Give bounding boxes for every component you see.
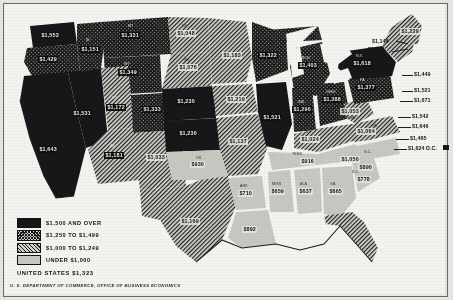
value-label-va: $1,064 xyxy=(356,128,376,135)
value-label-az: $1,181 xyxy=(104,152,124,159)
value-label-wi: $1,322 xyxy=(258,52,278,59)
legend-row-3: $1,000 TO $1,249 xyxy=(17,243,101,253)
value-label-nm: $1,033 xyxy=(146,154,166,161)
legend-label-1000-1249: $1,000 TO $1,249 xyxy=(46,245,99,251)
abbrev-ind: IND xyxy=(298,100,305,104)
value-label-ia: $1,219 xyxy=(226,96,246,103)
abbrev-va: VA xyxy=(372,124,377,128)
abbrev-pa: PA xyxy=(360,78,365,82)
callout-nj: $1,542 xyxy=(412,114,429,119)
abbrev-sc: S.C. xyxy=(352,170,359,174)
map-page: $1,553 $1,429 $1,643 $1,531 $1,151 $1,33… xyxy=(0,0,453,300)
value-label-sd: $1,076 xyxy=(178,64,198,71)
abbrev-nc: N.C. xyxy=(364,150,372,154)
abbrev-ms: MISS xyxy=(272,182,281,186)
callout-leader-ct xyxy=(400,101,413,102)
value-label-ny: $1,618 xyxy=(352,60,372,67)
value-label-ar: $710 xyxy=(238,190,253,197)
value-label-ok: $930 xyxy=(190,161,205,168)
value-label-id: $1,151 xyxy=(80,46,100,53)
value-label-oh: $1,388 xyxy=(322,96,342,103)
legend-swatch-under-1000 xyxy=(17,255,41,266)
value-label-ut: $1,172 xyxy=(106,104,126,111)
abbrev-al: ALA xyxy=(300,182,307,186)
abbrev-ok: OK xyxy=(196,156,201,160)
callout-leader-de xyxy=(398,127,411,128)
callout-nh: $1,183 xyxy=(368,47,385,52)
callout-ri: $1,521 xyxy=(414,88,431,93)
value-label-tn: $916 xyxy=(300,158,315,165)
value-label-ne: $1,230 xyxy=(176,98,196,105)
value-label-pa: $1,377 xyxy=(356,84,376,91)
value-label-nc: $890 xyxy=(358,164,373,171)
legend-swatch-1500-and-over xyxy=(17,218,41,229)
abbrev-wy: WY xyxy=(124,62,130,66)
abbrev-az: AZ xyxy=(110,144,115,148)
value-label-in: $1,290 xyxy=(292,106,312,113)
value-label-me: $1,229 xyxy=(400,28,420,35)
value-label-sc: $778 xyxy=(356,176,371,183)
abbrev-nd: ND xyxy=(182,24,187,28)
value-label-mt: $1,331 xyxy=(120,32,140,39)
abbrev-mt: MT xyxy=(128,24,133,28)
callout-leader-ma xyxy=(402,75,413,76)
abbrev-sd: SD xyxy=(184,58,189,62)
legend-row-4: UNDER $1,000 xyxy=(17,255,101,265)
callout-ma: $1,449 xyxy=(414,72,431,77)
value-label-mn: $1,183 xyxy=(222,52,242,59)
legend-row-1: $1,500 AND OVER xyxy=(17,218,101,228)
callout-leader-dc xyxy=(394,149,407,150)
value-label-fl: $1,050 xyxy=(340,156,360,163)
callout-leader-nj xyxy=(398,117,411,118)
value-label-wv: $1,053 xyxy=(340,108,360,115)
us-total-label: UNITED STATES $1,323 xyxy=(17,270,94,276)
value-label-tx: $1,169 xyxy=(180,218,200,225)
value-label-ga: $665 xyxy=(328,188,343,195)
value-label-wa: $1,553 xyxy=(40,32,60,39)
legend-row-2: $1,250 TO $1,499 xyxy=(17,230,101,240)
source-credit: U. S. DEPARTMENT OF COMMERCE, OFFICE OF … xyxy=(10,283,181,288)
abbrev-ny: N.Y. xyxy=(356,54,363,58)
abbrev-ohio: OHIO xyxy=(326,90,336,94)
callout-md: $1,465 xyxy=(410,136,427,141)
value-label-co: $1,333 xyxy=(142,106,162,113)
callout-leader-ri xyxy=(402,91,413,92)
abbrev-ga: GA xyxy=(330,182,335,186)
value-label-or: $1,429 xyxy=(38,56,58,63)
value-label-nd: $1,048 xyxy=(176,30,196,37)
callout-leader-md xyxy=(396,139,409,140)
abbrev-ut: UT xyxy=(112,96,117,100)
value-label-wy: $1,349 xyxy=(118,69,138,76)
value-label-mo: $1,137 xyxy=(228,138,248,145)
legend-swatch-1250-1499 xyxy=(17,230,41,241)
value-label-ca: $1,643 xyxy=(38,146,58,153)
callout-de: $1,646 xyxy=(412,124,429,129)
abbrev-id: ID xyxy=(86,38,90,42)
legend-label-1250-1499: $1,250 TO $1,499 xyxy=(46,232,99,238)
callout-vt: $1,148 xyxy=(372,39,389,44)
legend: $1,500 AND OVER $1,250 TO $1,499 $1,000 … xyxy=(17,218,101,268)
abbrev-tenn: TENN xyxy=(292,152,302,156)
value-label-al: $637 xyxy=(298,188,313,195)
abbrev-ky: KY xyxy=(306,130,311,134)
callout-ct: $1,671 xyxy=(414,98,431,103)
value-label-ks: $1,230 xyxy=(178,130,198,137)
value-label-nv: $1,531 xyxy=(72,110,92,117)
value-label-ms: $659 xyxy=(270,188,285,195)
legend-swatch-1000-1249 xyxy=(17,243,41,254)
value-label-ky: $1,024 xyxy=(300,136,320,143)
legend-label-under-1000: UNDER $1,000 xyxy=(46,257,91,263)
abbrev-mich: MICH xyxy=(300,56,310,60)
callout-dc: $1,624 D.C. xyxy=(408,146,437,151)
value-label-la: $892 xyxy=(242,226,257,233)
value-label-il: $1,521 xyxy=(262,114,282,121)
abbrev-wis: WIS xyxy=(262,46,269,50)
dc-marker-swatch xyxy=(443,145,449,150)
abbrev-wva: W.VA xyxy=(346,116,355,120)
legend-label-1500-and-over: $1,500 AND OVER xyxy=(46,220,101,226)
abbrev-ar: ARK xyxy=(240,184,248,188)
value-label-mi: $1,403 xyxy=(298,62,318,69)
